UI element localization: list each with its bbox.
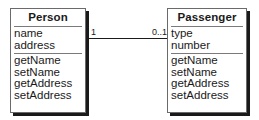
operation: setAddress [14,90,82,102]
multiplicity-passenger: 0..1 [152,28,167,37]
association-line [89,38,167,39]
class-passenger-title: Passenger [171,9,243,27]
class-passenger-operations: getName setName getAddress setAddress [171,54,243,103]
class-passenger: Passenger type number getName setName ge… [167,8,247,113]
class-passenger-attributes: type number [171,27,243,54]
operation: setAddress [171,90,243,102]
attribute: type [171,28,243,40]
class-person-operations: getName setName getAddress setAddress [14,54,82,103]
multiplicity-person: 1 [91,28,96,37]
attribute: number [171,40,243,52]
class-person-title: Person [14,9,82,27]
attribute: address [14,40,82,52]
attribute: name [14,28,82,40]
class-person: Person name address getName setName getA… [10,8,86,113]
class-person-attributes: name address [14,27,82,54]
